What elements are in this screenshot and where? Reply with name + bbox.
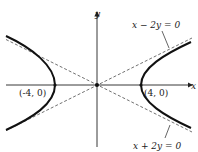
vertex-left-label: (-4, 0) [19, 88, 46, 98]
vertex-left [53, 83, 56, 86]
hyperbola-left-branch [6, 36, 55, 130]
origin-point [95, 83, 99, 87]
asymptote-top-label: x − 2y = 0 [132, 20, 180, 30]
hyperbola-diagram: y x (-4, 0) (4, 0) x − 2y = 0 x + 2y = 0 [0, 0, 198, 152]
asymptote-bottom-label: x + 2y = 0 [133, 141, 181, 151]
leader-top [162, 31, 169, 48]
leader-bottom [165, 125, 170, 138]
vertex-right-label: (4, 0) [144, 88, 168, 98]
vertex-right [139, 83, 142, 86]
x-axis-label: x [191, 81, 196, 91]
y-axis-label: y [94, 9, 101, 19]
